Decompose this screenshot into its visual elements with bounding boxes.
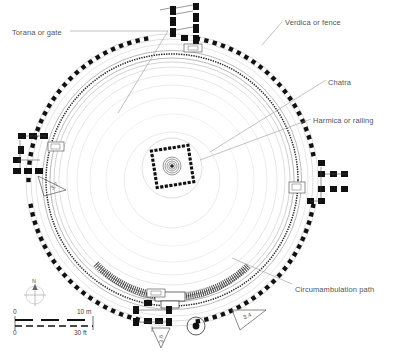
scale-bar-graphic (15, 316, 93, 330)
harmica-chatra-group (142, 138, 202, 198)
label-torana: Torana or gate (12, 28, 62, 37)
label-circumambulation-path: Circumambulation path (295, 285, 374, 294)
staircase-east (186, 266, 248, 300)
scale-imperial-end: 30 ft (74, 329, 87, 336)
section-marker-south-label: 3.6 (158, 335, 164, 343)
compass-rose (24, 284, 46, 306)
compass-north-label: N (32, 278, 36, 284)
torana-north (160, 3, 202, 52)
label-harmica: Harmica or railing (313, 116, 374, 125)
label-chatra: Chatra (328, 78, 351, 87)
medhi-drum-arc (43, 51, 302, 310)
verdica-fence-ring (26, 34, 318, 326)
chatra-rings (163, 157, 181, 175)
scale-metric-end: 10 m (77, 308, 91, 315)
stupa-dome-circles (50, 58, 294, 302)
scale-metric-start: 0 (13, 308, 17, 315)
scale-imperial-start: 0 (13, 329, 17, 336)
label-verdica: Verdica or fence (285, 18, 341, 27)
stupa-floor-plan (0, 0, 394, 361)
